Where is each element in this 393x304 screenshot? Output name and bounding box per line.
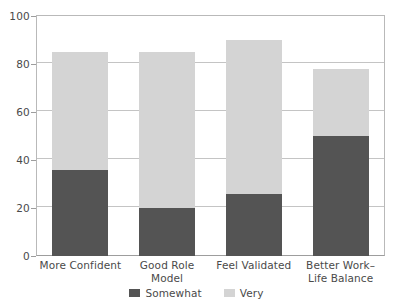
- bar-group[interactable]: [52, 16, 108, 256]
- stacked-bar-chart: 020406080100 More ConfidentGood Role Mod…: [0, 0, 393, 304]
- bar-segment-somewhat[interactable]: [313, 136, 369, 256]
- chart-legend: SomewhatVery: [0, 287, 393, 299]
- bar-segment-somewhat[interactable]: [226, 194, 282, 256]
- y-tick-mark-0: [31, 256, 36, 257]
- legend-swatch-icon: [224, 289, 235, 297]
- y-tick-label-20: 20: [2, 202, 30, 214]
- y-tick-label-100: 100: [2, 10, 30, 22]
- x-axis-label: Better Work–Life Balance: [297, 259, 384, 285]
- x-axis-label: Feel Validated: [211, 259, 298, 272]
- bar-group[interactable]: [226, 16, 282, 256]
- bar-segment-very[interactable]: [313, 69, 369, 136]
- x-axis-label-line: Good Role Model: [124, 259, 211, 285]
- legend-item[interactable]: Very: [224, 287, 264, 299]
- x-axis-label-line: Feel Validated: [211, 259, 298, 272]
- y-tick-label-40: 40: [2, 154, 30, 166]
- bar-segment-somewhat[interactable]: [139, 208, 195, 256]
- legend-item[interactable]: Somewhat: [129, 287, 201, 299]
- bars-group: [37, 16, 384, 256]
- bar-segment-very[interactable]: [52, 52, 108, 170]
- bar-group[interactable]: [313, 16, 369, 256]
- bar-group[interactable]: [139, 16, 195, 256]
- x-axis-label-line: Life Balance: [297, 272, 384, 285]
- x-axis-label: More Confident: [37, 259, 124, 272]
- x-axis-label-line: Better Work–: [297, 259, 384, 272]
- x-axis-label-line: More Confident: [37, 259, 124, 272]
- bar-segment-very[interactable]: [226, 40, 282, 194]
- bar-segment-very[interactable]: [139, 52, 195, 208]
- y-tick-label-80: 80: [2, 58, 30, 70]
- legend-swatch-icon: [129, 289, 140, 297]
- y-tick-label-0: 0: [2, 250, 30, 262]
- chart-title-remnant: [36, 0, 385, 9]
- y-tick-label-60: 60: [2, 106, 30, 118]
- legend-label: Somewhat: [145, 287, 201, 299]
- x-axis-label: Good Role Model: [124, 259, 211, 285]
- bar-segment-somewhat[interactable]: [52, 170, 108, 256]
- legend-label: Very: [240, 287, 264, 299]
